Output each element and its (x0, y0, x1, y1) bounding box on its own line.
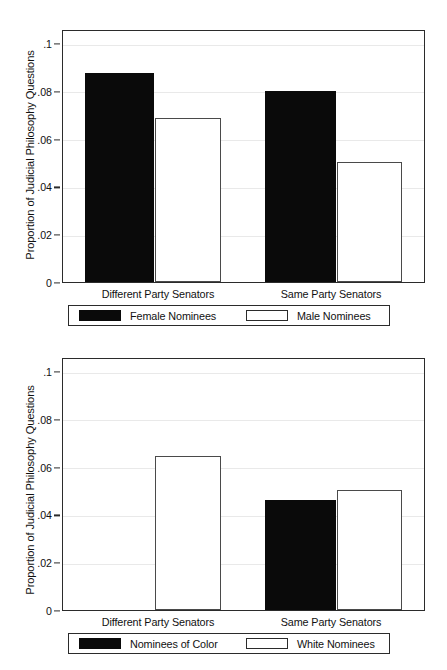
y-tick-mark-0 (54, 43, 60, 44)
y-tick-label-3: .04 (0, 181, 52, 193)
gridline-0.06 (63, 468, 424, 469)
legend-label-female-nominees: Female Nominees (130, 310, 216, 322)
y-tick-mark-4 (54, 235, 60, 236)
y-tick-label-4: .02 (0, 557, 52, 569)
gridline-0.1 (63, 45, 424, 46)
y-tick-mark-1 (54, 419, 60, 420)
gridline-0.08 (63, 420, 424, 421)
bar-same-party-nominees-of-color (265, 500, 336, 610)
y-tick-mark-1 (54, 91, 60, 92)
legend-label-white-nominees: White Nominees (297, 638, 375, 650)
legend-swatch-solid-icon (79, 310, 121, 321)
legend-swatch-hollow-icon (246, 638, 288, 649)
legend-gender: Female Nominees Male Nominees (68, 305, 390, 326)
legend-label-male-nominees: Male Nominees (297, 310, 371, 322)
legend-label-nominees-of-color: Nominees of Color (130, 638, 218, 650)
x-category-label-same-party: Same Party Senators (256, 288, 406, 300)
bar-same-party-white (337, 490, 402, 610)
bar-different-party-male (155, 118, 221, 282)
bar-same-party-female (265, 91, 336, 282)
x-category-label-different-party: Different Party Senators (74, 288, 242, 300)
y-tick-mark-4 (54, 563, 60, 564)
y-tick-mark-2 (54, 139, 60, 140)
x-category-label-different-party: Different Party Senators (74, 616, 242, 628)
y-tick-mark-0 (54, 371, 60, 372)
y-tick-label-1: .08 (0, 414, 52, 426)
legend-entry-nominees-of-color: Nominees of Color (69, 634, 246, 653)
legend-swatch-hollow-icon (246, 310, 288, 321)
y-tick-label-3: .04 (0, 509, 52, 521)
plot-area-race (62, 358, 425, 611)
y-tick-mark-5 (54, 610, 60, 611)
y-tick-mark-3 (54, 187, 60, 188)
y-tick-label-4: .02 (0, 229, 52, 241)
legend-entry-white-nominees: White Nominees (246, 634, 389, 653)
legend-entry-male-nominees: Male Nominees (246, 306, 389, 325)
x-category-label-same-party: Same Party Senators (256, 616, 406, 628)
y-axis-ticks: .1 .08 .06 .04 .02 0 (0, 0, 62, 335)
y-tick-label-5: 0 (0, 605, 52, 617)
y-axis-ticks: .1 .08 .06 .04 .02 0 (0, 335, 62, 670)
legend-race: Nominees of Color White Nominees (68, 633, 390, 654)
y-tick-label-2: .06 (0, 134, 52, 146)
plot-area-gender (62, 30, 425, 283)
bar-same-party-male (337, 162, 402, 282)
y-tick-mark-2 (54, 467, 60, 468)
chart-figure-gender: Proportion of Judicial Philosophy Questi… (0, 0, 447, 335)
y-tick-mark-5 (54, 282, 60, 283)
bar-different-party-white (155, 456, 221, 610)
y-tick-label-0: .1 (0, 366, 52, 378)
y-tick-label-2: .06 (0, 462, 52, 474)
y-tick-label-0: .1 (0, 38, 52, 50)
y-tick-label-1: .08 (0, 86, 52, 98)
bar-different-party-female (85, 73, 154, 282)
y-tick-label-5: 0 (0, 277, 52, 289)
legend-entry-female-nominees: Female Nominees (69, 306, 246, 325)
gridline-0.1 (63, 373, 424, 374)
y-tick-mark-3 (54, 515, 60, 516)
legend-swatch-solid-icon (79, 638, 121, 649)
chart-figure-race: Proportion of Judicial Philosophy Questi… (0, 335, 447, 670)
